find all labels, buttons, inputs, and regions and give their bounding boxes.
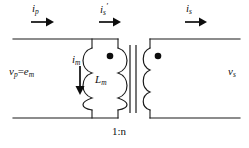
label-emf-subscript: m bbox=[29, 70, 34, 79]
label-secondary-voltage-subscript: s bbox=[233, 70, 236, 79]
label-secondary-referred-current: is′ bbox=[100, 2, 108, 16]
label-magnetizing-current: im bbox=[72, 54, 80, 67]
transformer-equivalent-circuit-figure: ip is′ is vp=em im Lm vs 1:n bbox=[0, 0, 249, 148]
label-turns-ratio-text: 1:n bbox=[112, 125, 126, 137]
secondary-coil-arcs bbox=[143, 48, 150, 110]
label-secondary-current: is bbox=[186, 3, 192, 16]
magnetizing-coil-right-arcs bbox=[118, 48, 127, 110]
label-primary-current-subscript: p bbox=[35, 7, 39, 16]
label-magnetizing-inductance: Lm bbox=[95, 74, 107, 87]
label-secondary-voltage: vs bbox=[228, 66, 236, 79]
label-secondary-current-subscript: s bbox=[189, 7, 192, 16]
polarity-dot-secondary-icon bbox=[155, 53, 162, 60]
magnetizing-current-arrow-icon bbox=[76, 66, 85, 95]
label-primary-current: ip bbox=[32, 3, 39, 16]
polarity-dot-primary-icon bbox=[107, 53, 114, 60]
secondary-referred-current-arrow-icon bbox=[99, 18, 121, 27]
label-magnetizing-inductance-subscript: m bbox=[101, 78, 106, 87]
label-primary-voltage: vp=em bbox=[9, 66, 34, 79]
label-turns-ratio: 1:n bbox=[112, 126, 126, 137]
magnetizing-coil-left-arcs bbox=[83, 48, 92, 110]
label-secondary-referred-current-prime: ′ bbox=[106, 1, 108, 11]
primary-current-arrow-icon bbox=[31, 18, 54, 27]
label-magnetizing-current-subscript: m bbox=[75, 58, 80, 67]
secondary-current-arrow-icon bbox=[185, 18, 207, 27]
